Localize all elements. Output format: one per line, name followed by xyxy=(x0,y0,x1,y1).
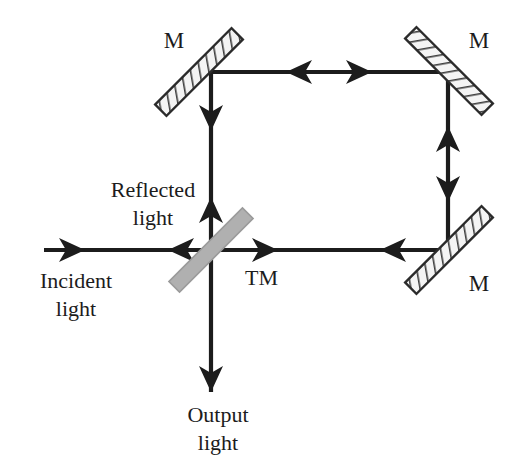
reflected-light-label-line1: Reflected xyxy=(111,177,195,202)
ring-interferometer-diagram: M M M TM Incident light Reflected light … xyxy=(0,0,515,471)
reflected-light-label-line2: light xyxy=(133,205,173,230)
output-light-label-line1: Output xyxy=(187,402,248,427)
incident-light-label-line1: Incident xyxy=(40,268,112,293)
incident-light-label-line2: light xyxy=(56,296,96,321)
mirror-bottom-right-label: M xyxy=(469,271,489,296)
mirror-top-right-label: M xyxy=(469,28,489,53)
beam-splitter-label: TM xyxy=(245,265,278,290)
output-light-label-line2: light xyxy=(198,430,238,455)
mirror-top-left-label: M xyxy=(164,28,184,53)
optical-diagram-figure: M M M TM Incident light Reflected light … xyxy=(0,0,515,471)
